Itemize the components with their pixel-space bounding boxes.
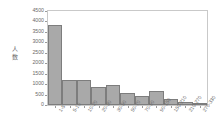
bar	[106, 85, 120, 105]
y-axis-tick-label: 1000	[20, 82, 44, 87]
y-axis-tick-label: 0	[20, 102, 44, 107]
y-axis-tick-label: 2000	[20, 61, 44, 66]
bar	[62, 80, 76, 105]
bar	[178, 102, 192, 105]
y-axis-tick-label: 500	[20, 92, 44, 97]
y-axis-tick-label: 3000	[20, 40, 44, 45]
bar	[91, 87, 105, 105]
y-axis-tick-label: 4000	[20, 19, 44, 24]
bar	[77, 80, 91, 105]
y-axis-tick-label: 1500	[20, 71, 44, 76]
bar	[135, 96, 149, 105]
bar	[164, 99, 178, 105]
bar	[120, 93, 134, 105]
y-axis-tick-label: 2500	[20, 50, 44, 55]
bar	[193, 103, 207, 105]
bars-container	[48, 11, 207, 105]
y-axis-tick-label: 4500	[20, 8, 44, 13]
bar	[149, 91, 163, 105]
bar	[48, 25, 62, 105]
y-axis-tick-label: 3500	[20, 29, 44, 34]
histogram-chart: 人数 050010001500200025003000350040004500 …	[0, 0, 218, 138]
